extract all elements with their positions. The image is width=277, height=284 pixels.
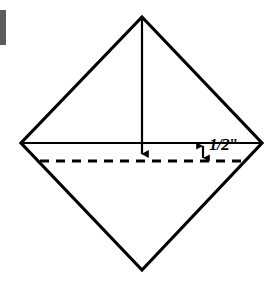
half-inch-dimension-label: 1/2"	[209, 136, 238, 153]
dimension-fraction-numerator: 1	[209, 136, 217, 153]
dimension-unit-inches: "	[229, 136, 237, 153]
figure-canvas: 1/2"	[0, 0, 277, 284]
